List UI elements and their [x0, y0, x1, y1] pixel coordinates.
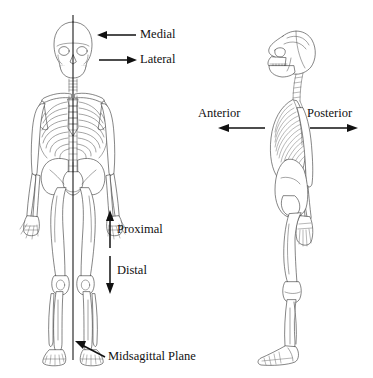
label-medial: Medial: [140, 28, 175, 41]
medial-arrow: [97, 31, 136, 39]
label-distal: Distal: [117, 264, 147, 277]
diagram-canvas: Medial Lateral Proximal Distal Midsagitt…: [0, 0, 373, 378]
anterior-arrow: [218, 124, 265, 132]
label-posterior: Posterior: [307, 107, 352, 120]
distal-arrow: [106, 256, 114, 294]
label-lateral: Lateral: [140, 53, 175, 66]
label-midsagittal-plane: Midsagittal Plane: [108, 350, 196, 363]
lateral-arrow: [99, 56, 137, 64]
label-anterior: Anterior: [198, 107, 240, 120]
label-proximal: Proximal: [117, 223, 163, 236]
midsagittal-plane-arrow: [75, 341, 105, 357]
posterior-arrow: [310, 124, 358, 132]
annotation-arrows: [0, 0, 373, 378]
proximal-arrow: [106, 210, 114, 248]
